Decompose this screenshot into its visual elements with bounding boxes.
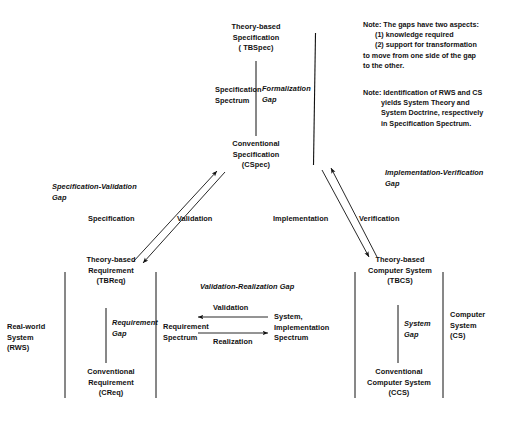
- node-requirement-spectrum: Requirement Spectrum: [163, 322, 209, 343]
- note-gap-aspects: Note: The gaps have two aspects: (1) kno…: [363, 20, 479, 71]
- label-verification: Verification: [359, 214, 399, 225]
- label-formalization-gap: Formalization Gap: [262, 84, 311, 105]
- label-implementation-verification-gap: Implementation-Verification Gap: [385, 168, 483, 189]
- verification-arrow: [331, 168, 377, 257]
- node-theory-based-requirement: Theory-based Requirement (TBReq): [68, 255, 154, 287]
- node-real-world-system: Real-world System (RWS): [7, 322, 45, 354]
- label-realization-horizontal: Realization: [213, 337, 253, 348]
- node-conventional-requirement: Conventional Requirement (CReq): [68, 367, 154, 399]
- diagram-canvas: Theory-based Specification ( TBSpec) For…: [0, 0, 506, 429]
- node-conventional-computer-system: Conventional Computer System (CCS): [354, 367, 444, 399]
- label-specification-spectrum: Specification Spectrum: [215, 85, 262, 106]
- node-system-implementation-spectrum: System, Implementation Spectrum: [274, 312, 329, 344]
- node-conventional-specification: Conventional Specification (CSpec): [206, 139, 306, 171]
- label-specification-validation-gap: Specification-Validation Gap: [52, 182, 137, 203]
- label-implementation: Implementation: [273, 214, 328, 225]
- note-identification: Note: Identification of RWS and CS yield…: [363, 88, 483, 129]
- label-validation-realization-gap: Validation-Realization Gap: [200, 282, 294, 293]
- node-computer-system: Computer System (CS): [450, 310, 485, 342]
- node-theory-based-specification: Theory-based Specification ( TBSpec): [206, 22, 306, 54]
- node-theory-based-computer-system: Theory-based Computer System (TBCS): [355, 255, 445, 287]
- label-requirement-gap: Requirement Gap: [112, 318, 158, 339]
- specification-spectrum-line: [314, 33, 316, 165]
- label-specification: Specification: [88, 214, 135, 225]
- label-validation-horizontal: Validation: [213, 303, 248, 314]
- label-system-gap: System Gap: [404, 319, 431, 340]
- label-validation-diagonal: Validation: [177, 214, 212, 225]
